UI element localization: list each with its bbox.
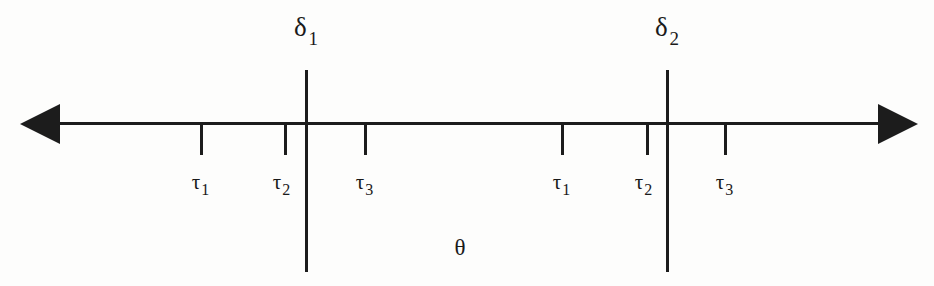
tick-mark-tau-3-b [724,123,727,155]
tick-label-tau-1-b: τ1 [553,172,569,193]
tick-label-tau-3-b: τ3 [716,172,732,193]
threshold-subscript: 2 [670,28,680,49]
threshold-symbol: δ [294,12,307,42]
tick-subscript: 2 [282,181,290,198]
tick-mark-tau-2-b [646,123,649,155]
tick-subscript: 2 [644,181,652,198]
left-arrowhead-icon [20,104,60,144]
tick-label-tau-3-a: τ3 [356,172,372,193]
tick-label-tau-2-b: τ2 [635,172,651,193]
axis-line [40,122,900,125]
tick-subscript: 3 [365,181,373,198]
threshold-line-delta-2 [666,70,669,272]
tick-symbol: τ [273,170,281,194]
tick-mark-tau-2-a [284,123,287,155]
tick-label-tau-2-a: τ2 [273,172,289,193]
threshold-symbol: δ [655,12,668,42]
threshold-label-delta-2: δ2 [655,14,677,41]
threshold-label-delta-1: δ1 [294,14,316,41]
tick-mark-tau-3-a [364,123,367,155]
tick-mark-tau-1-a [200,123,203,155]
tick-mark-tau-1-b [561,123,564,155]
axis-variable-label: θ [454,236,465,259]
tick-symbol: τ [356,170,364,194]
threshold-subscript: 1 [309,28,319,49]
tick-subscript: 3 [725,181,733,198]
tick-symbol: τ [192,170,200,194]
tick-subscript: 1 [201,181,209,198]
tick-symbol: τ [553,170,561,194]
right-arrowhead-icon [878,104,918,144]
threshold-number-line-figure: τ1 τ2 τ3 τ1 τ2 τ3 δ1 δ2 θ [0,0,934,286]
tick-symbol: τ [716,170,724,194]
tick-label-tau-1-a: τ1 [192,172,208,193]
tick-subscript: 1 [562,181,570,198]
tick-symbol: τ [635,170,643,194]
threshold-line-delta-1 [305,70,308,272]
